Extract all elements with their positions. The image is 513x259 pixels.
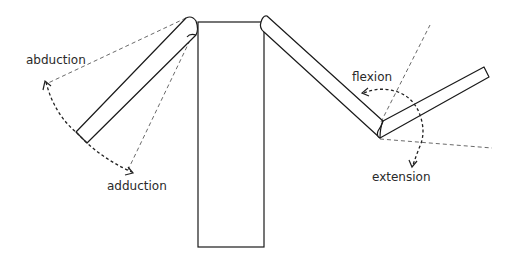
abduction-label: abduction	[26, 53, 86, 67]
extension-guide-line	[380, 139, 492, 148]
extension-label: extension	[372, 170, 431, 184]
torso-rectangle	[198, 22, 264, 247]
right-forearm-segment	[377, 67, 489, 138]
left-arm-segment	[76, 17, 198, 143]
flexion-label: flexion	[352, 70, 392, 84]
joint-movement-diagram: abduction adduction flexion extension	[0, 0, 513, 259]
elbow-guide-lines	[380, 25, 492, 148]
adduction-label: adduction	[107, 179, 167, 193]
adduction-arrow-icon	[125, 167, 133, 175]
